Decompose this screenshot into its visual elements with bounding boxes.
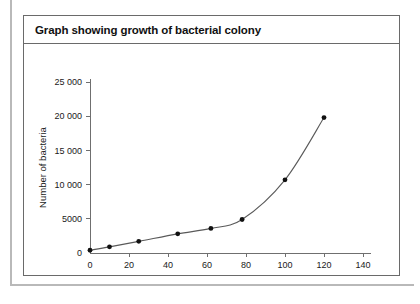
x-axis-ticks: 020406080100120140 <box>87 253 370 270</box>
x-tick-label: 120 <box>316 260 331 270</box>
x-tick-label: 0 <box>87 260 92 270</box>
figure-box: Graph showing growth of bacterial colony… <box>23 15 400 276</box>
data-series-markers <box>88 115 327 252</box>
data-series-curve <box>90 118 324 251</box>
data-point <box>322 115 327 120</box>
data-point <box>88 248 93 253</box>
chart-plot-area: 0500010 00015 00020 00025 000 0204060801… <box>24 44 399 276</box>
y-tick-label: 25 000 <box>54 77 82 87</box>
y-tick-label: 10 000 <box>54 180 82 190</box>
y-tick-label: 20 000 <box>54 111 82 121</box>
y-tick-label: 0 <box>77 248 82 258</box>
y-axis-title: Number of bacteria <box>37 126 48 208</box>
x-axis-title: Time (min) <box>204 275 249 276</box>
x-tick-label: 60 <box>202 260 212 270</box>
x-tick-label: 140 <box>355 260 370 270</box>
data-point <box>136 239 141 244</box>
figure-title-bar: Graph showing growth of bacterial colony <box>24 16 399 44</box>
figure-title: Graph showing growth of bacterial colony <box>24 24 261 36</box>
x-tick-label: 20 <box>124 260 134 270</box>
data-point <box>283 177 288 182</box>
data-point <box>175 231 180 236</box>
x-tick-label: 80 <box>241 260 251 270</box>
y-tick-label: 15 000 <box>54 146 82 156</box>
data-point <box>209 226 214 231</box>
x-tick-label: 100 <box>277 260 292 270</box>
y-tick-label: 5000 <box>62 214 82 224</box>
x-tick-label: 40 <box>163 260 173 270</box>
y-axis-ticks: 0500010 00015 00020 00025 000 <box>54 77 90 258</box>
data-point <box>240 217 245 222</box>
data-point <box>107 244 112 249</box>
line-chart: 0500010 00015 00020 00025 000 0204060801… <box>24 44 399 276</box>
